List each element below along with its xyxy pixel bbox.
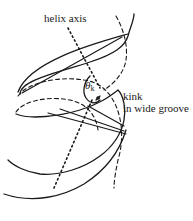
kink-label-line2: in wide groove [123,102,189,114]
kink-point [97,97,100,100]
lower-strand-solid-2 [4,130,126,199]
middle-arc-dashed [18,79,122,188]
cross-link-1 [48,113,126,134]
upper-strand-solid [20,14,134,94]
upper-backbone-line [22,37,122,93]
kinked-dna-helix-diagram: helix axis θk kink in wide groove [0,0,193,221]
theta-subscript: k [90,84,94,93]
kink-angle-label: θk [85,79,94,95]
kink-label-line1: kink [123,90,143,102]
upper-strand-dashed [104,16,127,90]
lower-strand-solid-1 [8,90,125,174]
helix-axis-label: helix axis [44,12,86,24]
